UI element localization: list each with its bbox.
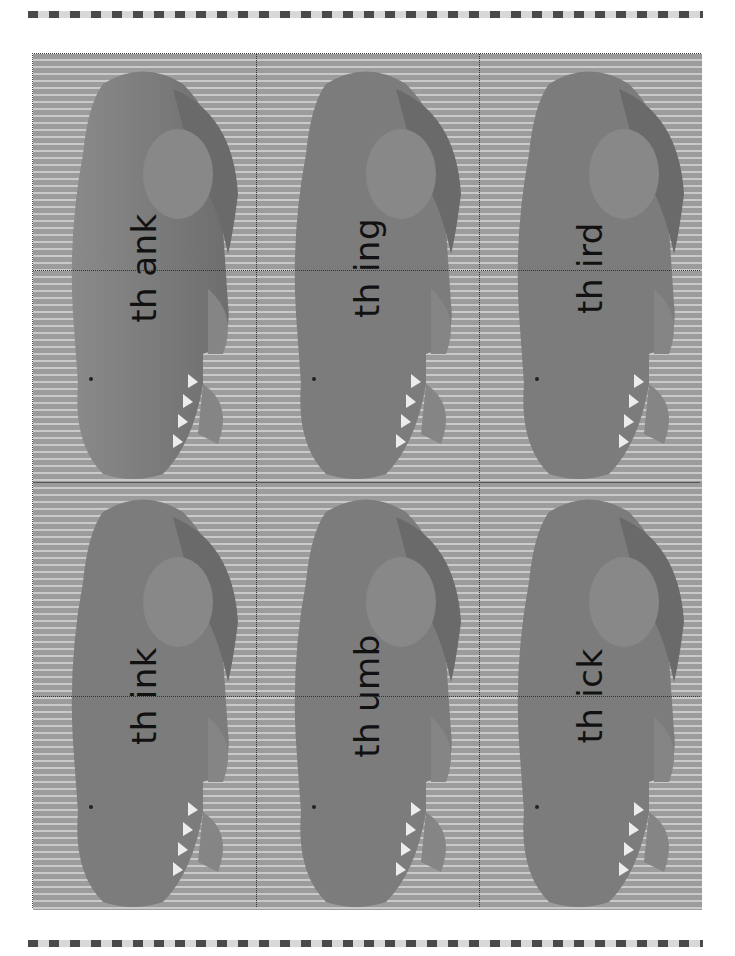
word-prefix: th: [570, 278, 610, 314]
word-ending: umb: [347, 634, 387, 712]
card-third: third: [479, 54, 702, 482]
card-thing: thing: [256, 54, 479, 482]
cut-line-vertical: [256, 54, 257, 907]
card-word: third: [570, 222, 610, 314]
cut-line-horizontal: [33, 696, 700, 697]
word-prefix: th: [347, 722, 387, 758]
word-prefix: th: [570, 708, 610, 744]
word-ending: ing: [347, 218, 387, 272]
cut-line-horizontal: [33, 270, 700, 271]
bottom-cut-border: [28, 940, 703, 947]
cut-line-horizontal: [33, 482, 700, 483]
word-ending: ird: [570, 222, 610, 268]
card-word: thing: [347, 218, 387, 318]
word-prefix: th: [347, 282, 387, 318]
card-thank: thank: [33, 54, 256, 482]
card-sheet: thank thing third: [32, 53, 701, 908]
word-ending: ink: [124, 647, 164, 699]
word-prefix: th: [124, 287, 164, 323]
card-word: thank: [124, 213, 164, 322]
cut-line-vertical: [479, 54, 480, 907]
word-ending: ank: [124, 213, 164, 277]
word-prefix: th: [124, 709, 164, 745]
word-ending: ick: [570, 648, 610, 697]
top-cut-border: [28, 11, 703, 18]
